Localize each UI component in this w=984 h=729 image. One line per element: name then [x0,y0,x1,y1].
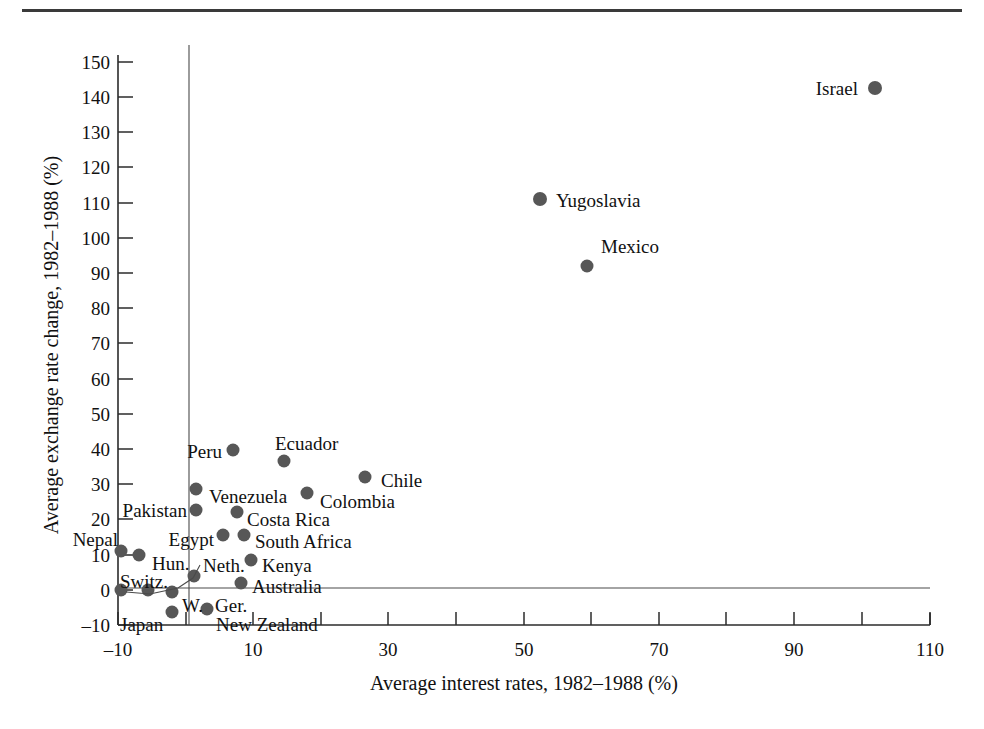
y-axis-title: Average exchange rate change, 1982–1988 … [40,156,63,534]
y-tick-40: 40 [91,439,110,460]
point-chile[interactable] [359,471,372,484]
y-tick-70: 70 [91,333,110,354]
point-australia[interactable] [235,577,248,590]
label-japan: Japan [120,614,164,635]
label-w: W. [182,595,203,616]
x-tick-10: 10 [244,639,263,660]
figure-page: 150 140 130 120 110 100 90 80 70 60 50 4… [0,0,984,729]
point-israel[interactable] [868,81,882,95]
label-israel: Israel [816,78,858,99]
label-south-africa: South Africa [255,531,352,552]
y-tick-110: 110 [82,193,110,214]
point-south-africa[interactable] [238,529,251,542]
label-nepal: Nepal [73,529,118,550]
y-tick-50: 50 [91,404,110,425]
point-mexico[interactable] [581,260,594,273]
point-venezuela[interactable] [190,483,203,496]
label-ger: Ger. [215,595,247,616]
label-pakistan: Pakistan [123,500,188,521]
x-tick-70: 70 [650,639,669,660]
label-costa-rica: Costa Rica [247,509,330,530]
y-tick-60: 60 [91,369,110,390]
point-hungary[interactable] [133,549,146,562]
y-tick-100: 100 [82,228,111,249]
label-venezuela: Venezuela [209,486,288,507]
point-yugoslavia[interactable] [533,192,547,206]
x-tick-90: 90 [785,639,804,660]
label-kenya: Kenya [262,555,312,576]
x-tick-m10: –10 [103,639,133,660]
x-axis-tick-labels: –10 10 30 50 70 90 110 [103,639,944,660]
x-tick-110: 110 [916,639,944,660]
point-egypt[interactable] [217,529,230,542]
y-tick-m10: –10 [81,615,111,636]
scatter-plot-canvas: 150 140 130 120 110 100 90 80 70 60 50 4… [0,0,984,729]
y-tick-0: 0 [101,580,111,601]
y-tick-80: 80 [91,298,110,319]
point-kenya[interactable] [245,554,258,567]
point-costa-rica[interactable] [231,506,244,519]
label-switzerland: Switz. [120,571,168,592]
label-egypt: Egypt [169,529,215,550]
y-tick-20: 20 [91,509,110,530]
label-australia: Australia [252,576,322,597]
y-axis-ticks [118,62,133,625]
point-peru[interactable] [227,444,240,457]
point-japan[interactable] [166,606,179,619]
label-ecuador: Ecuador [275,433,339,454]
x-axis-title: Average interest rates, 1982–1988 (%) [370,672,678,695]
y-tick-120: 120 [82,157,111,178]
point-ecuador[interactable] [278,455,291,468]
label-colombia: Colombia [320,491,396,512]
label-yugoslavia: Yugoslavia [556,190,641,211]
y-tick-130: 130 [82,122,111,143]
label-peru: Peru [187,441,222,462]
y-tick-30: 30 [91,474,110,495]
x-tick-50: 50 [515,639,534,660]
point-colombia[interactable] [301,487,314,500]
data-points [115,81,883,619]
label-netherlands: Neth. [203,555,245,576]
label-mexico: Mexico [601,236,659,257]
y-tick-90: 90 [91,263,110,284]
point-pakistan[interactable] [190,504,203,517]
y-tick-140: 140 [82,87,111,108]
x-tick-30: 30 [379,639,398,660]
point-labels: Israel Yugoslavia Mexico Peru Ecuador Ch… [73,78,858,635]
y-tick-150: 150 [82,52,111,73]
label-new-zealand: New Zealand [216,614,318,635]
label-chile: Chile [381,470,422,491]
